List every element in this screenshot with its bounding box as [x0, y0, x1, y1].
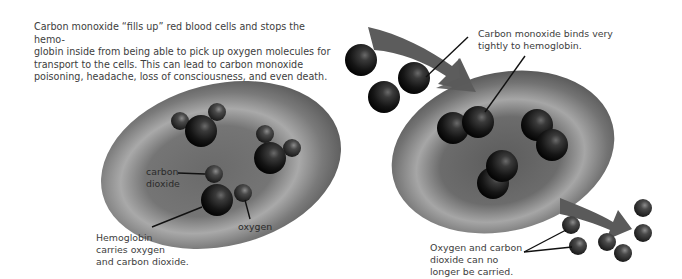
- intro-line: globin inside from being able to pick up…: [34, 46, 334, 59]
- carbon-dioxide-label: carbon dioxide: [146, 166, 180, 190]
- no-longer-carried-label: Oxygen and carbon dioxide can no longer …: [430, 242, 522, 278]
- oxygen-label: oxygen: [238, 221, 272, 233]
- co-binds-label: Carbon monoxide binds very tightly to he…: [478, 28, 613, 52]
- intro-line: transport to the cells. This can lead to…: [34, 59, 334, 72]
- intro-paragraph: Carbon monoxide “fills up” red blood cel…: [34, 21, 334, 84]
- intro-line: Carbon monoxide “fills up” red blood cel…: [34, 21, 334, 46]
- hemoglobin-label: Hemoglobin carries oxygen and carbon dio…: [96, 232, 189, 268]
- intro-line: poisoning, headache, loss of consciousne…: [34, 71, 334, 84]
